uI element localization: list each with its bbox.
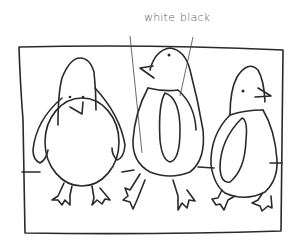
penguin-middle (123, 48, 203, 210)
picture-frame (19, 46, 283, 234)
ground-line (22, 163, 282, 172)
penguin-illustration (0, 0, 302, 251)
label-white: white (144, 11, 175, 24)
label-black: black (180, 11, 210, 24)
white-leader-line (130, 36, 142, 153)
penguin-right (211, 66, 277, 211)
black-leader-line (180, 37, 193, 96)
penguin-left (33, 58, 125, 205)
